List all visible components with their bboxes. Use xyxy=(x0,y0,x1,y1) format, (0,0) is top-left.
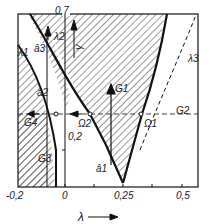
y-tick-0-7: 0,7 xyxy=(55,5,69,16)
lambda3-label: λ3 xyxy=(187,53,199,64)
a2-label: â2 xyxy=(37,87,49,98)
a1-label: â1 xyxy=(96,163,107,174)
lambda1-label: λ1 xyxy=(17,47,28,58)
omega2-arrow xyxy=(70,111,82,117)
omega2-point xyxy=(88,112,92,116)
stability-diagram: 0,7 0,2 γ λ1 λ2 λ3 â3 â2 â1 G1 G2 G3 G4 … xyxy=(0,0,216,224)
x-tick-0-25: 0,25 xyxy=(114,190,134,201)
g1-label: G1 xyxy=(115,83,128,94)
g3-label: G3 xyxy=(38,153,52,164)
lambda-axis-label: λ xyxy=(77,210,84,224)
lambda-arrow xyxy=(88,214,118,220)
omega1-label: Ω1 xyxy=(144,118,157,129)
lambda2-label: λ2 xyxy=(53,31,65,42)
x-tick-neg-0-2: -0,2 xyxy=(6,190,24,201)
x-tick-0: 0 xyxy=(62,190,68,201)
g4-label: G4 xyxy=(24,117,38,128)
x-tick-0-5: 0,5 xyxy=(176,190,190,201)
omega2-label: Ω2 xyxy=(78,118,92,129)
omega2-point-left xyxy=(54,112,58,116)
g2-label: G2 xyxy=(176,105,190,116)
omega1-point xyxy=(139,112,143,116)
y-tick-0-2: 0,2 xyxy=(68,131,82,142)
a3-label: â3 xyxy=(34,43,46,54)
